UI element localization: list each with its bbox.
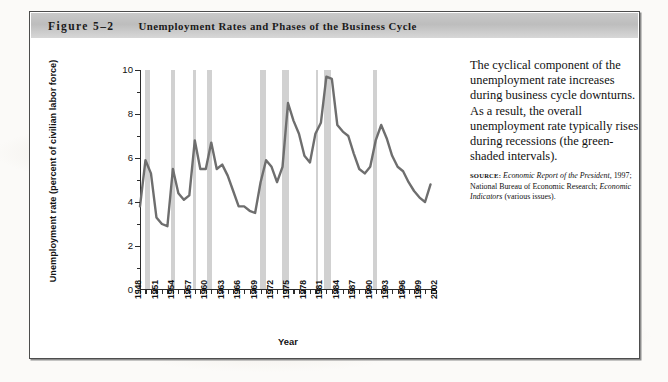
figure-title: Unemployment Rates and Phases of the Bus… xyxy=(139,20,417,32)
x-tick xyxy=(359,290,360,294)
x-tick-label: 1951 xyxy=(150,280,160,299)
y-tick-label: 8 xyxy=(109,108,133,119)
y-tick-label: 10 xyxy=(109,64,133,75)
y-tick-minor xyxy=(137,180,140,181)
x-tick xyxy=(261,290,262,294)
x-tick-label: 1969 xyxy=(249,280,259,299)
source-line-2: National Bureau of Economic Research; xyxy=(470,182,598,191)
source-rest-1: 1997; xyxy=(612,171,632,180)
x-tick-label: 1978 xyxy=(298,280,308,299)
x-tick xyxy=(244,290,245,294)
x-tick xyxy=(392,290,393,294)
figure-number: Figure 5–2 xyxy=(48,20,115,32)
caption-block: The cyclical component of the unemployme… xyxy=(470,58,646,203)
x-tick-label: 1999 xyxy=(413,280,423,299)
y-tick-minor xyxy=(137,224,140,225)
x-tick-label: 1981 xyxy=(314,280,324,299)
chart-area: Unemployment rate (percent of civilian l… xyxy=(52,46,444,351)
x-tick-label: 1954 xyxy=(166,280,176,299)
x-tick-label: 1963 xyxy=(216,280,226,299)
y-tick-minor xyxy=(137,136,140,137)
x-tick xyxy=(162,290,163,294)
y-axis-label: Unemployment rate (percent of civilian l… xyxy=(48,46,62,296)
source-title-1: Economic Report of the President, xyxy=(503,171,612,180)
x-tick xyxy=(409,290,410,294)
x-tick xyxy=(326,290,327,294)
x-tick xyxy=(293,290,294,294)
x-tick xyxy=(376,290,377,294)
x-tick xyxy=(277,290,278,294)
source-rest-2: (various issues). xyxy=(502,192,555,201)
x-tick xyxy=(178,290,179,294)
y-tick-minor xyxy=(137,268,140,269)
plot-region: 0246810194819511954195719601963196619691… xyxy=(140,70,436,290)
figure-title-bar: Figure 5–2 Unemployment Rates and Phases… xyxy=(31,13,638,38)
x-axis-label: Year xyxy=(140,336,436,347)
x-tick xyxy=(343,290,344,294)
x-tick-label: 1960 xyxy=(199,280,209,299)
x-tick-label: 1948 xyxy=(133,280,143,299)
unemployment-rate-line xyxy=(140,70,436,290)
source-note: SOURCE: Economic Report of the President… xyxy=(470,171,646,202)
x-tick-label: 1984 xyxy=(331,280,341,299)
y-tick-label: 6 xyxy=(109,152,133,163)
caption-text: The cyclical component of the unemployme… xyxy=(470,58,646,164)
y-tick-minor xyxy=(137,92,140,93)
x-tick-label: 2002 xyxy=(429,280,439,299)
y-tick-major xyxy=(135,202,140,203)
x-tick-label: 1966 xyxy=(232,280,242,299)
x-tick xyxy=(310,290,311,294)
y-tick-major xyxy=(135,158,140,159)
y-tick-label: 4 xyxy=(109,196,133,207)
x-tick-label: 1975 xyxy=(281,280,291,299)
y-tick-label: 2 xyxy=(109,240,133,251)
x-tick xyxy=(195,290,196,294)
y-tick-label: 0 xyxy=(109,284,133,295)
x-tick-label: 1996 xyxy=(397,280,407,299)
x-tick xyxy=(425,290,426,294)
x-tick xyxy=(211,290,212,294)
y-tick-major xyxy=(135,70,140,71)
source-label: SOURCE: xyxy=(470,172,501,179)
y-tick-major xyxy=(135,246,140,247)
x-tick-label: 1972 xyxy=(265,280,275,299)
x-tick xyxy=(145,290,146,294)
x-tick-label: 1993 xyxy=(380,280,390,299)
y-tick-major xyxy=(135,114,140,115)
x-tick xyxy=(228,290,229,294)
figure-frame: Figure 5–2 Unemployment Rates and Phases… xyxy=(29,11,640,359)
x-tick-label: 1987 xyxy=(347,280,357,299)
x-tick-label: 1957 xyxy=(183,280,193,299)
x-tick-label: 1990 xyxy=(364,280,374,299)
